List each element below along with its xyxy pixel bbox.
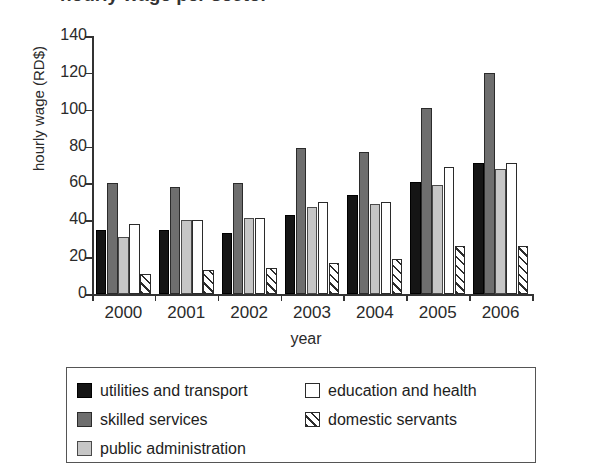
x-axis-label-2000: 2000: [88, 303, 158, 323]
bar-education-2005: [444, 167, 455, 294]
bar-public-2004: [370, 204, 381, 294]
plot-area: 020406080100120140: [92, 36, 532, 294]
bar-skilled-2004: [359, 152, 370, 294]
bar-public-2005: [432, 185, 443, 294]
bar-domestic-2004: [392, 259, 403, 294]
legend-swatch-utilities-icon: [77, 383, 92, 398]
bar-public-2006: [495, 169, 506, 294]
bar-public-2003: [307, 207, 318, 294]
legend-item[interactable]: education and health: [305, 376, 477, 405]
bar-utilities-2001: [159, 230, 170, 295]
x-axis-label-2004: 2004: [340, 303, 410, 323]
bar-education-2000: [129, 224, 140, 294]
y-axis-tick-label: 40: [69, 210, 87, 228]
x-axis-label-2003: 2003: [277, 303, 347, 323]
legend-item[interactable]: skilled services: [77, 405, 248, 434]
legend-label: utilities and transport: [100, 382, 248, 400]
bar-skilled-2006: [484, 73, 495, 294]
bar-utilities-2000: [96, 230, 107, 295]
legend-item[interactable]: domestic servants: [305, 405, 477, 434]
x-axis-tick-mark: [281, 294, 283, 301]
bar-utilities-2002: [222, 233, 233, 294]
legend-item[interactable]: utilities and transport: [77, 376, 248, 405]
x-axis-tick-mark: [406, 294, 408, 301]
legend-label: education and health: [328, 382, 477, 400]
y-axis-tick-label: 20: [69, 247, 87, 265]
y-axis-tick-label: 0: [78, 284, 87, 302]
legend-swatch-skilled-icon: [77, 412, 92, 427]
x-axis-tick-mark: [532, 294, 534, 301]
x-axis-tick-mark: [92, 294, 94, 301]
y-axis-tick-label: 100: [60, 100, 87, 118]
bar-domestic-2001: [203, 270, 214, 294]
bar-utilities-2004: [347, 195, 358, 295]
bar-domestic-2006: [518, 246, 529, 294]
bar-domestic-2002: [266, 268, 277, 294]
legend-item[interactable]: public administration: [77, 434, 248, 463]
x-axis-tick-mark: [469, 294, 471, 301]
legend-swatch-education-icon: [305, 383, 320, 398]
legend-column-right: education and healthdomestic servants: [305, 376, 477, 434]
y-axis-tick-label: 60: [69, 173, 87, 191]
x-axis-label-2006: 2006: [466, 303, 536, 323]
bar-domestic-2003: [329, 263, 340, 294]
y-axis-tick-label: 80: [69, 137, 87, 155]
x-axis-label-2002: 2002: [214, 303, 284, 323]
x-axis-line: [92, 294, 533, 296]
y-axis-title: hourly wage (RD$): [30, 9, 47, 209]
legend-label: domestic servants: [328, 411, 457, 429]
bar-utilities-2003: [285, 215, 296, 294]
x-axis-label-2001: 2001: [151, 303, 221, 323]
bar-utilities-2005: [410, 182, 421, 294]
bar-education-2001: [192, 220, 203, 294]
legend-column-left: utilities and transportskilled servicesp…: [77, 376, 248, 463]
x-axis-tick-mark: [218, 294, 220, 301]
legend-swatch-domestic-icon: [305, 412, 320, 427]
bar-skilled-2001: [170, 187, 181, 294]
bar-education-2003: [318, 202, 329, 294]
bar-skilled-2000: [107, 183, 118, 294]
x-axis-tick-mark: [155, 294, 157, 301]
bar-utilities-2006: [473, 163, 484, 294]
bar-public-2000: [118, 237, 129, 294]
x-axis-tick-mark: [343, 294, 345, 301]
y-axis-tick-label: 140: [60, 26, 87, 44]
legend-swatch-public-icon: [77, 441, 92, 456]
bar-education-2004: [381, 202, 392, 294]
bar-education-2002: [255, 218, 266, 294]
chart-legend: utilities and transportskilled servicesp…: [66, 367, 536, 463]
bar-public-2001: [181, 220, 192, 294]
bar-domestic-2000: [140, 274, 151, 294]
bar-skilled-2005: [421, 108, 432, 294]
bar-domestic-2005: [455, 246, 466, 294]
legend-label: skilled services: [100, 411, 208, 429]
bar-education-2006: [506, 163, 517, 294]
x-axis-title: year: [0, 330, 612, 348]
y-axis-tick-label: 120: [60, 63, 87, 81]
bar-skilled-2002: [233, 183, 244, 294]
legend-label: public administration: [100, 440, 246, 458]
x-axis-label-2005: 2005: [403, 303, 473, 323]
bar-skilled-2003: [296, 148, 307, 294]
bar-public-2002: [244, 218, 255, 294]
